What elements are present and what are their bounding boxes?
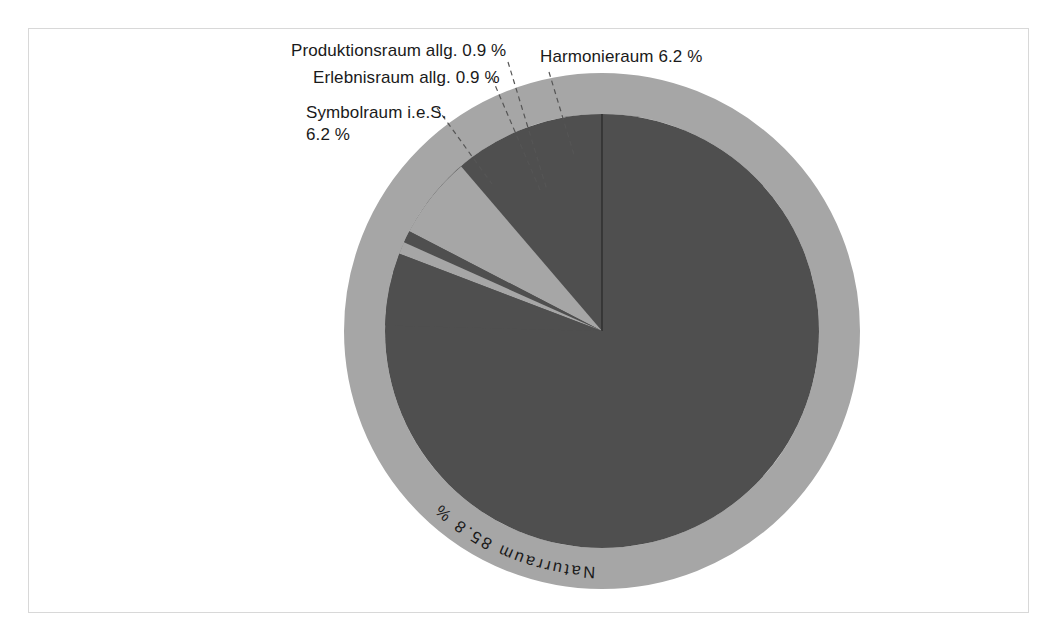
pie-slices	[385, 114, 819, 548]
label-harmonieraum: Harmonieraum 6.2 %	[540, 46, 702, 68]
label-symbolraum-name: Symbolraum i.e.S.	[306, 103, 447, 122]
pie-chart-figure: Naturraum 85.8 % Produktionsraum allg. 0…	[0, 0, 1058, 641]
label-erlebnisraum: Erlebnisraum allg. 0.9 %	[313, 67, 500, 89]
label-symbolraum: Symbolraum i.e.S. 6.2 %	[306, 102, 447, 147]
pie-chart-svg: Naturraum 85.8 %	[0, 0, 1058, 641]
label-produktionsraum: Produktionsraum allg. 0.9 %	[291, 40, 506, 62]
label-symbolraum-value: 6.2 %	[306, 124, 447, 146]
